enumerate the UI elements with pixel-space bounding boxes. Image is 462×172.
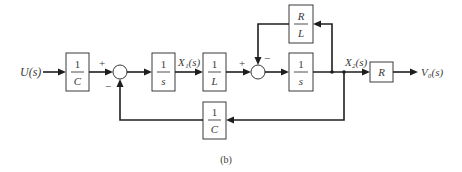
feedback-wire-rl-in (313, 21, 332, 73)
wire-b2-b3 (175, 69, 203, 76)
x1-signal-label: X₁(s) (177, 56, 200, 69)
block-1-over-l: 1 L (203, 53, 226, 91)
block-1-over-s-second: 1 s (289, 53, 313, 91)
block-r-over-l: R L (289, 5, 313, 43)
block-4-denominator: L (297, 27, 304, 39)
input-wire (43, 69, 66, 76)
x2-signal-label: X₂(s) (344, 56, 367, 69)
wire-sum2-b5 (265, 69, 289, 76)
sum2-plus-sign: + (239, 57, 245, 69)
output-signal-label: V₀(s) (421, 66, 443, 79)
block-1-over-c: 1 C (66, 53, 89, 91)
block-r: R (370, 62, 393, 82)
block-2-denominator: s (161, 75, 165, 87)
block-6-label: R (377, 66, 385, 78)
block-5-denominator: s (299, 75, 303, 87)
wire-b3-sum2 (226, 69, 251, 76)
block-3-denominator: L (210, 75, 217, 87)
block-5-numerator: 1 (298, 58, 304, 70)
sum1-plus-sign: + (99, 57, 105, 69)
feedback-wire-c-in (226, 72, 344, 124)
block-7-denominator: C (211, 123, 219, 135)
feedback-wire-rl-out (255, 24, 290, 65)
summing-junction-2 (251, 65, 265, 79)
sum2-minus-sign: − (264, 52, 270, 64)
sum1-minus-sign: − (105, 80, 111, 92)
block-3-numerator: 1 (212, 58, 218, 70)
input-signal-label: U(s) (20, 65, 41, 79)
block-diagram: U(s) 1 C + − 1 s X₁(s) 1 L (0, 0, 462, 172)
block-2-numerator: 1 (161, 58, 167, 70)
wire-b1-sum1 (89, 69, 113, 76)
block-4-numerator: R (297, 10, 305, 22)
block-1-denominator: C (74, 75, 82, 87)
block-7-numerator: 1 (212, 106, 218, 118)
summing-junction-1 (113, 65, 127, 79)
output-wire (393, 69, 418, 76)
wire-b5-b6 (313, 69, 370, 76)
block-1-numerator: 1 (75, 58, 81, 70)
wire-sum1-b2 (127, 69, 152, 76)
block-1-over-c-feedback: 1 C (203, 102, 226, 139)
figure-caption: (b) (220, 154, 232, 166)
block-1-over-s-first: 1 s (152, 53, 175, 91)
